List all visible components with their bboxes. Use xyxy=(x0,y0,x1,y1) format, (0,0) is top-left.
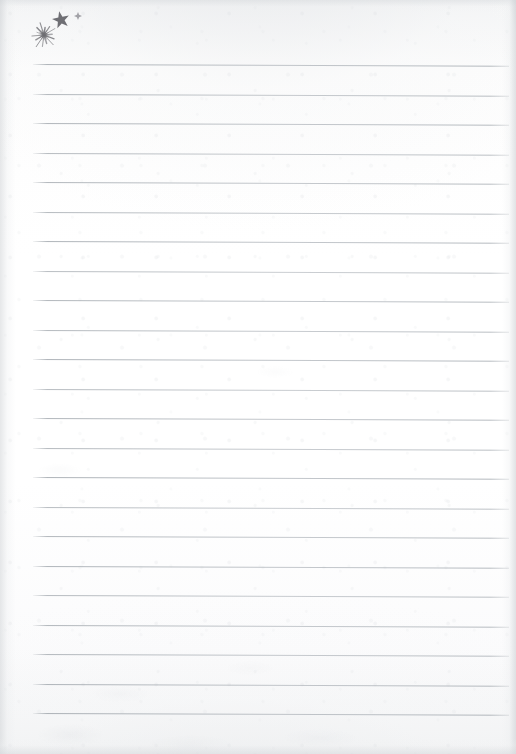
page-body-text[interactable] xyxy=(36,70,506,710)
scanned-page xyxy=(0,0,516,754)
